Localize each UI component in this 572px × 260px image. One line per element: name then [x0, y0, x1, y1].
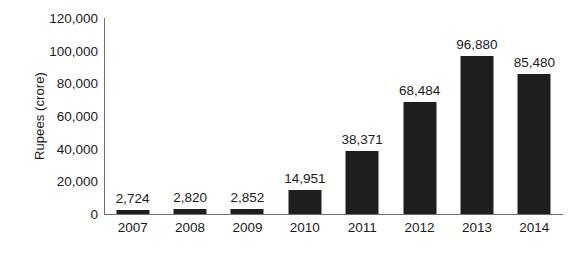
x-axis-tick-label: 2010	[290, 220, 320, 235]
y-axis-tick-label: 100,000	[34, 43, 98, 58]
x-axis-tick-label: 2008	[175, 220, 205, 235]
y-axis-tick-label: 120,000	[34, 11, 98, 26]
x-axis-tick-label: 2012	[405, 220, 435, 235]
bar-chart: Rupees (crore) 020,00040,00060,00080,000…	[0, 0, 572, 260]
y-axis-tick-labels: 020,00040,00060,00080,000100,000120,000	[34, 0, 98, 260]
x-axis-tick-label: 2014	[519, 220, 549, 235]
x-axis-tick-labels: 20072008200920102011201220132014	[104, 0, 563, 260]
x-axis-tick-label: 2009	[232, 220, 262, 235]
y-axis-tick-label: 60,000	[34, 109, 98, 124]
y-axis-tick-label: 20,000	[34, 174, 98, 189]
x-axis-tick-label: 2011	[348, 220, 377, 235]
y-axis-tick-label: 80,000	[34, 76, 98, 91]
x-axis-tick-label: 2007	[118, 220, 148, 235]
x-axis-tick-label: 2013	[462, 220, 492, 235]
y-axis-tick-label: 0	[34, 207, 98, 222]
y-axis-tick-label: 40,000	[34, 141, 98, 156]
